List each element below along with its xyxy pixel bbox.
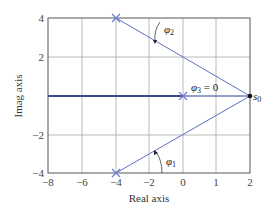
phi1-label: φ1 <box>166 155 176 169</box>
x-tick-labels: −8 −6 −4 −2 0 1 2 <box>42 176 253 188</box>
svg-text:2: 2 <box>39 51 45 63</box>
svg-text:−2: −2 <box>32 129 44 141</box>
phi2-arc <box>155 22 160 41</box>
svg-text:0: 0 <box>180 176 186 188</box>
x-axis-label: Real axis <box>129 192 170 204</box>
test-point-s0 <box>248 94 253 99</box>
svg-text:−8: −8 <box>42 176 54 188</box>
svg-text:1: 1 <box>213 176 219 188</box>
y-tick-labels: 4 2 −2 −4 <box>32 12 44 179</box>
svg-text:−2: −2 <box>143 176 155 188</box>
svg-text:4: 4 <box>39 12 45 24</box>
svg-text:−4: −4 <box>110 176 122 188</box>
phi1-arc <box>156 152 162 173</box>
root-locus-diagram: s0 φ2 φ3 = 0 φ1 4 2 −2 −4 −8 −6 −4 −2 0 … <box>0 0 277 215</box>
y-axis-label: Imag axis <box>12 74 24 117</box>
svg-text:−6: −6 <box>76 176 88 188</box>
phi3-label: φ3 = 0 <box>191 81 219 95</box>
s0-label: s0 <box>253 90 261 104</box>
phi2-label: φ2 <box>164 23 174 37</box>
svg-text:2: 2 <box>247 176 253 188</box>
